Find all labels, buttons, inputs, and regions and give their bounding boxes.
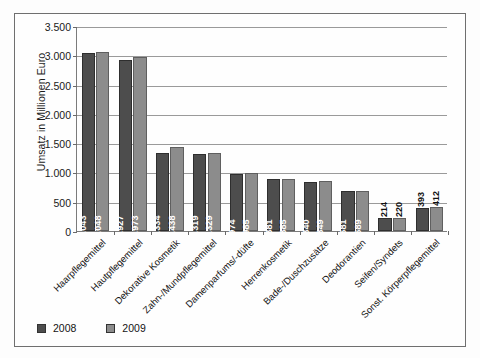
bar-value-label: 974 (227, 219, 237, 235)
legend-entry[interactable]: 2008 (37, 322, 76, 334)
y-tick-label: 2.000 (45, 109, 71, 121)
x-tick-mark (411, 231, 412, 235)
bar: 985 (245, 173, 258, 231)
bar: 1.438 (170, 147, 183, 231)
x-tick-mark (337, 231, 338, 235)
legend-label: 2009 (122, 322, 145, 334)
bar-value-label: 885 (278, 219, 288, 235)
bar-value-label: 849 (315, 219, 325, 235)
bar-value-label: 2.927 (115, 215, 125, 239)
bar-value-label: 393 (416, 192, 426, 207)
bar-value-label: 220 (394, 202, 404, 217)
bar: 3.048 (96, 52, 109, 231)
x-tick-mark (225, 231, 226, 235)
x-tick-mark (188, 231, 189, 235)
chart-frame: Umsatz in Millionen Euro 05001.0001.5002… (14, 13, 466, 347)
bar: 885 (282, 179, 295, 231)
bar-value-label: 1.334 (152, 215, 162, 239)
bar-value-label: 689 (353, 219, 363, 235)
y-tick-label: 3.500 (45, 21, 71, 33)
x-axis-category-label: Damenparfums/-düfte (183, 237, 256, 310)
bar-value-label: 881 (264, 219, 274, 235)
bar: 2.927 (119, 60, 132, 231)
y-tick-label: 1.500 (45, 138, 71, 150)
bar-value-label: 214 (379, 202, 389, 217)
y-tick-label: 500 (53, 197, 71, 209)
y-tick-label: 0 (65, 226, 71, 238)
x-axis-category-label: Dekorative Kosmetik (113, 237, 182, 306)
bar-value-label: 1.438 (167, 215, 177, 239)
legend-swatch-icon (37, 324, 46, 333)
bar-value-label: 1.329 (204, 215, 214, 239)
x-tick-mark (263, 231, 264, 235)
legend-entry[interactable]: 2009 (106, 322, 145, 334)
bar: 393 (416, 208, 429, 231)
plot-area: 05001.0001.5002.0002.5003.0003.500 3.043… (76, 27, 447, 232)
bar: 849 (319, 181, 332, 231)
y-tick-label: 2.500 (45, 80, 71, 92)
x-tick-mark (300, 231, 301, 235)
y-tick-label: 1.000 (45, 167, 71, 179)
bar-value-label: 1.319 (190, 215, 200, 239)
bar: 1.329 (208, 153, 221, 231)
bar-value-label: 412 (431, 191, 441, 206)
bar-value-label: 840 (301, 219, 311, 235)
x-tick-mark (151, 231, 152, 235)
bar: 2.973 (133, 57, 146, 231)
legend-swatch-icon (106, 324, 115, 333)
bar: 412 (430, 207, 443, 231)
bar-value-label: 3.048 (93, 215, 103, 239)
bars-layer: 3.0433.0482.9272.9731.3341.4381.3191.329… (77, 27, 447, 231)
x-axis-category-label: Bade-/Duschzusätze (261, 237, 331, 307)
bar: 3.043 (82, 53, 95, 231)
x-tick-mark (114, 231, 115, 235)
bar-value-label: 985 (241, 219, 251, 235)
bar: 214 (378, 218, 391, 231)
bar: 220 (393, 218, 406, 231)
y-tick-mark (73, 232, 77, 233)
y-tick-label: 3.000 (45, 50, 71, 62)
legend-label: 2008 (53, 322, 76, 334)
bar-value-label: 2.973 (130, 215, 140, 239)
chart-legend: 20082009 (37, 322, 146, 334)
x-tick-mark (448, 231, 449, 235)
bar-value-label: 3.043 (78, 215, 88, 239)
bar: 689 (356, 191, 369, 231)
bar-value-label: 681 (338, 219, 348, 235)
x-tick-mark (374, 231, 375, 235)
